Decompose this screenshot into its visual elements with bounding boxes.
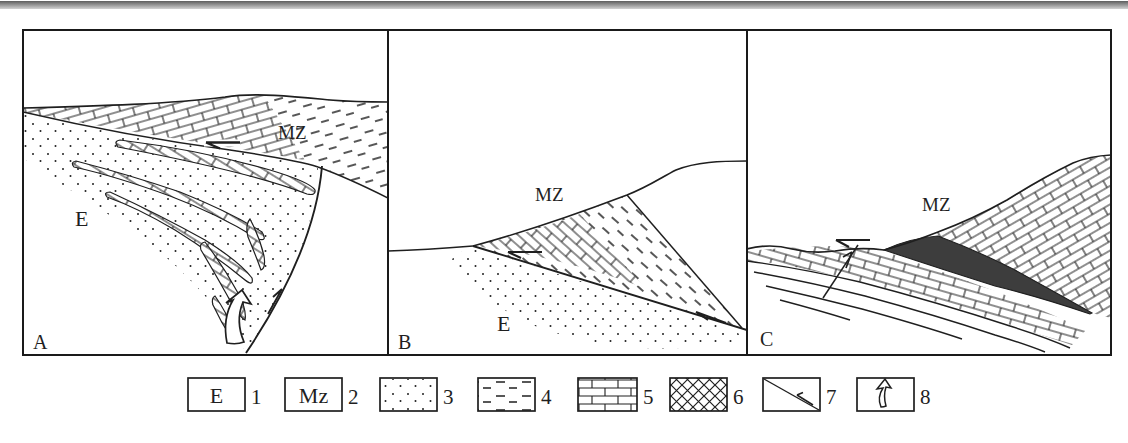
panel-letter: B <box>398 331 411 353</box>
panel-c: MZ C <box>747 30 1111 355</box>
legend-item-dashes: 4 <box>478 378 552 411</box>
scan-edge-bar <box>0 1 1128 9</box>
legend-item-crosshatch: 6 <box>670 378 744 411</box>
legend-number: 6 <box>733 385 744 409</box>
legend-number: 4 <box>541 385 552 409</box>
geological-cross-sections-figure: E MZ A MZ E B <box>0 0 1128 443</box>
legend-number: 5 <box>643 385 654 409</box>
unit-label-e: E <box>497 311 510 336</box>
dash-pattern-icon <box>478 378 535 411</box>
unit-label-mz: MZ <box>278 122 307 143</box>
panel-b: MZ E B <box>388 30 747 355</box>
legend-number: 3 <box>443 385 454 409</box>
legend-symbol-label: E <box>210 383 223 408</box>
legend-number: 2 <box>348 385 359 409</box>
unit-label-mz: MZ <box>922 194 951 215</box>
legend-item-dots: 3 <box>380 378 454 411</box>
legend-number: 1 <box>251 385 262 409</box>
legend-item-unit-mz: Mz 2 <box>285 378 359 411</box>
legend-item-open-arrow: 8 <box>857 378 931 411</box>
crosshatch-pattern-icon <box>670 378 727 411</box>
panel-a: E MZ A <box>23 30 388 355</box>
legend-number: 8 <box>920 385 931 409</box>
figure-canvas: E MZ A MZ E B <box>0 0 1128 443</box>
legend-item-unit-e: E 1 <box>188 378 262 411</box>
dots-pattern-icon <box>381 379 436 410</box>
unit-label-e: E <box>75 206 88 231</box>
thrust-half-arrow-icon <box>836 240 870 247</box>
legend-symbol-label: Mz <box>299 383 329 408</box>
legend-item-fault: 7 <box>763 378 837 411</box>
panel-letter: C <box>760 328 773 350</box>
brick-pattern-icon <box>578 378 637 411</box>
legend-number: 7 <box>826 385 837 409</box>
legend-item-bricks: 5 <box>578 378 654 411</box>
legend: E 1 Mz 2 3 4 5 6 <box>188 378 931 411</box>
panel-letter: A <box>33 331 48 353</box>
unit-label-mz: MZ <box>535 184 564 205</box>
